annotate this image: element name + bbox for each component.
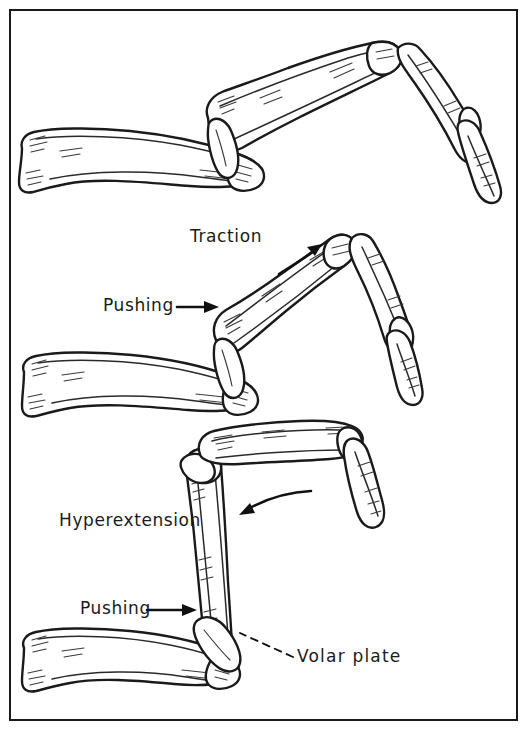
label-pushing-bottom: Pushing (80, 600, 151, 617)
label-volar-plate: Volar plate (297, 648, 402, 665)
label-traction: Traction (190, 228, 262, 245)
bone-illustration-artwork: .bone{fill:#ffffff;stroke:#1a1a1a;stroke… (0, 0, 528, 733)
figure-root: .bone{fill:#ffffff;stroke:#1a1a1a;stroke… (0, 0, 528, 733)
panel-middle-artwork (22, 234, 423, 416)
label-hyperextension: Hyperextension (59, 512, 201, 529)
leader-volar-plate (240, 633, 293, 657)
panel-top-artwork (19, 42, 501, 203)
arrow-pushing-bottom (147, 604, 197, 616)
arrow-pushing-middle (177, 301, 219, 313)
arrow-hyperextension (239, 491, 311, 515)
label-pushing-middle: Pushing (103, 297, 174, 314)
